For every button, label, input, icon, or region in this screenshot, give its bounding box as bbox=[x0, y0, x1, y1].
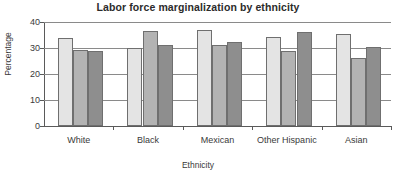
bar bbox=[143, 31, 158, 126]
bar bbox=[351, 58, 366, 126]
bar bbox=[58, 38, 73, 126]
y-tick-label: 30 bbox=[14, 44, 40, 53]
bar bbox=[127, 48, 142, 126]
x-axis-line bbox=[44, 126, 391, 127]
x-category-label: White bbox=[44, 135, 113, 146]
x-category-label: Mexican bbox=[183, 135, 252, 146]
x-category-label: Asian bbox=[322, 135, 391, 146]
bar bbox=[227, 42, 242, 127]
bar bbox=[281, 51, 296, 126]
bar bbox=[158, 45, 173, 126]
y-tick-label: 20 bbox=[14, 70, 40, 79]
bar bbox=[366, 47, 381, 126]
y-axis-tick-labels: 010203040 bbox=[10, 22, 40, 126]
x-tick-mark bbox=[113, 126, 114, 130]
bar bbox=[73, 50, 88, 126]
bar bbox=[197, 30, 212, 126]
y-tick-label: 10 bbox=[14, 96, 40, 105]
y-tick-label: 40 bbox=[14, 18, 40, 27]
x-tick-mark bbox=[391, 126, 392, 130]
bar-chart: Labor force marginalization by ethnicity… bbox=[0, 0, 396, 179]
y-tick-mark bbox=[40, 48, 44, 49]
x-tick-mark bbox=[322, 126, 323, 130]
x-axis-category-labels: WhiteBlackMexicanOther HispanicAsian bbox=[44, 135, 391, 149]
bar bbox=[88, 51, 103, 126]
gridline bbox=[44, 22, 391, 23]
x-axis-label: Ethnicity bbox=[0, 160, 396, 170]
bar bbox=[297, 32, 312, 126]
x-category-label: Other Hispanic bbox=[252, 135, 321, 146]
bar bbox=[212, 45, 227, 126]
plot-area bbox=[44, 22, 391, 126]
x-tick-mark bbox=[183, 126, 184, 130]
bar bbox=[336, 34, 351, 126]
x-tick-mark bbox=[252, 126, 253, 130]
y-tick-label: 0 bbox=[14, 122, 40, 131]
bar bbox=[266, 37, 281, 126]
chart-title: Labor force marginalization by ethnicity bbox=[0, 1, 396, 13]
y-tick-mark bbox=[40, 100, 44, 101]
y-tick-mark bbox=[40, 74, 44, 75]
y-tick-mark bbox=[40, 126, 44, 127]
x-category-label: Black bbox=[113, 135, 182, 146]
y-tick-mark bbox=[40, 22, 44, 23]
